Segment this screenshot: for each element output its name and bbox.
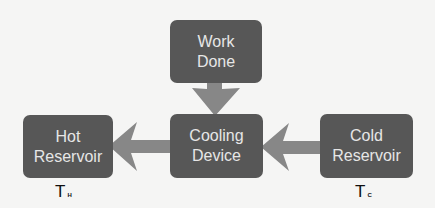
heat-pump-diagram: Work Done Cooling Device Hot Reservoir C…: [0, 0, 435, 208]
cooling-device-line1: Cooling: [189, 126, 243, 146]
cooling-device-line2: Device: [192, 146, 241, 166]
arrow-cold-to-cooling: [261, 123, 322, 171]
hot-reservoir-line1: Hot: [56, 127, 81, 147]
cold-reservoir-line2: Reservoir: [332, 146, 400, 166]
hot-temperature-label: TH: [55, 183, 72, 204]
cooling-device-box: Cooling Device: [170, 114, 263, 178]
arrow-work-to-cooling: [192, 82, 240, 116]
hot-temp-symbol: T: [55, 182, 65, 201]
work-done-line2: Done: [197, 52, 235, 72]
cold-temperature-label: TC: [355, 183, 372, 204]
cold-temp-symbol: T: [355, 182, 365, 201]
cold-reservoir-line1: Cold: [350, 126, 383, 146]
cold-temp-subscript: C: [367, 192, 371, 198]
work-done-line1: Work: [197, 32, 234, 52]
cold-reservoir-box: Cold Reservoir: [320, 114, 413, 178]
hot-temp-subscript: H: [67, 192, 71, 198]
hot-reservoir-box: Hot Reservoir: [23, 115, 113, 178]
work-done-box: Work Done: [170, 20, 262, 83]
arrow-cooling-to-hot: [109, 122, 172, 171]
hot-reservoir-line2: Reservoir: [34, 147, 102, 167]
